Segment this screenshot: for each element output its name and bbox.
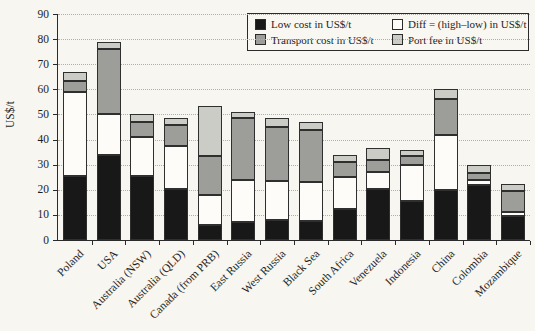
x-tick-3 bbox=[159, 241, 160, 245]
y-tick-label-10: 10 bbox=[19, 209, 49, 221]
bar-segment-australia-nsw--series-2 bbox=[130, 122, 154, 137]
bar-segment-colombia-series-0 bbox=[467, 185, 491, 240]
bar-segment-black-sea-series-0 bbox=[299, 221, 323, 240]
bar-segment-usa-series-2 bbox=[97, 49, 121, 114]
y-tick-label-30: 30 bbox=[19, 159, 49, 171]
y-tick-50 bbox=[53, 114, 57, 115]
x-tick-14 bbox=[530, 241, 531, 245]
y-tick-90 bbox=[53, 14, 57, 15]
bar-segment-south-africa-series-3 bbox=[333, 155, 357, 163]
gridline-20 bbox=[58, 190, 530, 191]
gridline-10 bbox=[58, 215, 530, 216]
bar-segment-china-series-0 bbox=[434, 190, 458, 240]
bar-segment-west-russia-series-0 bbox=[265, 220, 289, 240]
bar-segment-usa-series-1 bbox=[97, 114, 121, 154]
legend-swatch-icon-1 bbox=[392, 19, 403, 30]
x-tick-4 bbox=[193, 241, 194, 245]
gridline-40 bbox=[58, 140, 530, 141]
bar-segment-south-africa-series-2 bbox=[333, 162, 357, 177]
gridline-70 bbox=[58, 64, 530, 65]
y-tick-label-40: 40 bbox=[19, 134, 49, 146]
chart-canvas: US$/t Low cost in US$/tTransport cost in… bbox=[0, 0, 535, 331]
bar-segment-indonesia-series-3 bbox=[400, 150, 424, 156]
bar-segment-mozambique-series-0 bbox=[501, 216, 525, 240]
bar-segment-mozambique-series-3 bbox=[501, 184, 525, 192]
bar-segment-colombia-series-3 bbox=[467, 165, 491, 174]
y-tick-20 bbox=[53, 190, 57, 191]
bar-segment-east-russia-series-3 bbox=[231, 112, 255, 118]
legend-item-0: Low cost in US$/t bbox=[255, 18, 386, 31]
y-tick-label-0: 0 bbox=[19, 235, 49, 247]
gridline-30 bbox=[58, 165, 530, 166]
y-tick-label-80: 80 bbox=[19, 34, 49, 46]
x-category-label-1: USA bbox=[95, 248, 119, 272]
legend-item-1: Diff = (high–low) in US$/t bbox=[392, 18, 526, 31]
x-tick-10 bbox=[395, 241, 396, 245]
y-tick-0 bbox=[53, 240, 57, 241]
x-tick-12 bbox=[463, 241, 464, 245]
bar-segment-canada-from-prb--series-1 bbox=[198, 195, 222, 225]
gridline-90 bbox=[58, 14, 530, 15]
bar-segment-poland-series-1 bbox=[63, 92, 87, 176]
bar-segment-east-russia-series-1 bbox=[231, 180, 255, 223]
legend: Low cost in US$/tTransport cost in US$/t… bbox=[247, 13, 529, 51]
bar-segment-australia-qld--series-1 bbox=[164, 146, 188, 189]
bar-segment-usa-series-0 bbox=[97, 155, 121, 240]
bar-segment-venezuela-series-0 bbox=[366, 189, 390, 240]
y-tick-70 bbox=[53, 64, 57, 65]
bar-segment-west-russia-series-2 bbox=[265, 127, 289, 181]
bar-segment-poland-series-2 bbox=[63, 81, 87, 92]
bar-segment-china-series-2 bbox=[434, 99, 458, 134]
bar-segment-west-russia-series-3 bbox=[265, 118, 289, 127]
x-category-label-10: Indonesia bbox=[383, 248, 423, 288]
bar-segment-black-sea-series-3 bbox=[299, 122, 323, 130]
bar-segment-black-sea-series-1 bbox=[299, 182, 323, 221]
y-tick-60 bbox=[53, 89, 57, 90]
legend-label-1: Diff = (high–low) in US$/t bbox=[408, 18, 526, 31]
bar-segment-mozambique-series-1 bbox=[501, 212, 525, 216]
x-tick-6 bbox=[260, 241, 261, 245]
bar-segment-colombia-series-2 bbox=[467, 173, 491, 179]
y-tick-30 bbox=[53, 165, 57, 166]
x-category-label-11: China bbox=[429, 248, 457, 276]
x-tick-1 bbox=[92, 241, 93, 245]
bar-segment-indonesia-series-0 bbox=[400, 201, 424, 240]
x-category-label-0: Poland bbox=[55, 248, 86, 279]
gridline-80 bbox=[58, 39, 530, 40]
y-tick-label-90: 90 bbox=[19, 9, 49, 21]
y-tick-label-50: 50 bbox=[19, 109, 49, 121]
bar-segment-australia-nsw--series-0 bbox=[130, 176, 154, 240]
x-tick-5 bbox=[227, 241, 228, 245]
y-tick-label-70: 70 bbox=[19, 59, 49, 71]
bar-segment-west-russia-series-1 bbox=[265, 181, 289, 220]
bar-segment-black-sea-series-2 bbox=[299, 130, 323, 183]
bar-segment-australia-nsw--series-3 bbox=[130, 114, 154, 122]
bar-segment-indonesia-series-1 bbox=[400, 165, 424, 201]
x-tick-9 bbox=[361, 241, 362, 245]
bar-segment-canada-from-prb--series-0 bbox=[198, 225, 222, 240]
bar-segment-poland-series-3 bbox=[63, 72, 87, 81]
bar-segment-australia-qld--series-3 bbox=[164, 118, 188, 124]
y-tick-10 bbox=[53, 215, 57, 216]
y-tick-label-60: 60 bbox=[19, 84, 49, 96]
bar-segment-east-russia-series-0 bbox=[231, 222, 255, 240]
bar-segment-indonesia-series-2 bbox=[400, 156, 424, 165]
bar-segment-canada-from-prb--series-3 bbox=[198, 106, 222, 156]
bar-segment-south-africa-series-0 bbox=[333, 209, 357, 240]
bar-segment-australia-qld--series-2 bbox=[164, 125, 188, 146]
bar-segment-venezuela-series-2 bbox=[366, 160, 390, 173]
plot-area: Low cost in US$/tTransport cost in US$/t… bbox=[57, 14, 530, 241]
x-tick-8 bbox=[328, 241, 329, 245]
bar-segment-south-africa-series-1 bbox=[333, 177, 357, 208]
gridline-50 bbox=[58, 114, 530, 115]
bar-segment-australia-nsw--series-1 bbox=[130, 137, 154, 176]
bar-segment-poland-series-0 bbox=[63, 176, 87, 240]
bar-segment-colombia-series-1 bbox=[467, 180, 491, 185]
x-tick-13 bbox=[496, 241, 497, 245]
bar-segment-east-russia-series-2 bbox=[231, 118, 255, 180]
y-tick-label-20: 20 bbox=[19, 184, 49, 196]
gridline-60 bbox=[58, 89, 530, 90]
bar-segment-venezuela-series-1 bbox=[366, 172, 390, 188]
x-tick-7 bbox=[294, 241, 295, 245]
bar-segment-canada-from-prb--series-2 bbox=[198, 156, 222, 195]
